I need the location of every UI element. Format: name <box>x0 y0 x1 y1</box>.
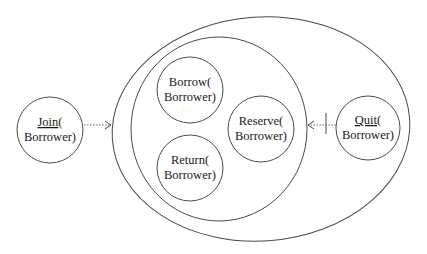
borrow-label-line1: Borrow( <box>169 75 211 89</box>
use-case-borrow[interactable]: Borrow( Borrower) <box>157 57 223 123</box>
diagram-canvas: Join( Borrower) Borrow( Borrower) Return… <box>0 0 427 254</box>
borrow-label-line2: Borrower) <box>164 90 216 104</box>
join-label-line2: Borrower) <box>24 130 76 144</box>
reserve-label-line1: Reserve( <box>239 114 283 128</box>
diagram-svg: Join( Borrower) Borrow( Borrower) Return… <box>0 0 427 254</box>
return-label-line1: Return( <box>171 153 209 167</box>
quit-edge <box>308 113 336 134</box>
return-label-line2: Borrower) <box>164 168 216 182</box>
reserve-label-line2: Borrower) <box>235 129 287 143</box>
use-case-return[interactable]: Return( Borrower) <box>157 135 223 201</box>
join-edge <box>84 121 111 129</box>
quit-paren: ( <box>377 113 381 127</box>
quit-label-line2: Borrower) <box>342 128 394 142</box>
join-paren: ( <box>58 115 62 129</box>
quit-label-line1: Quit( <box>355 113 381 127</box>
use-case-reserve[interactable]: Reserve( Borrower) <box>228 96 294 162</box>
use-case-quit[interactable]: Quit( Borrower) <box>336 96 400 160</box>
join-name: Join <box>37 115 59 129</box>
join-label-line1: Join( <box>37 115 62 129</box>
use-case-join[interactable]: Join( Borrower) <box>17 97 83 163</box>
quit-name: Quit <box>355 113 378 127</box>
